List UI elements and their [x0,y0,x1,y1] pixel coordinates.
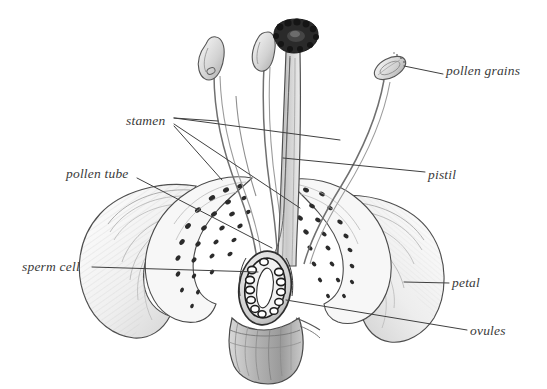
stigma [273,18,319,53]
anther-mid-left [252,32,275,71]
flower-anatomy-illustration [0,0,547,389]
receptacle [229,318,320,384]
anther-right [371,52,410,85]
label-stamen: stamen [126,114,165,128]
label-petal: petal [452,276,480,290]
stamen-left [198,37,263,268]
label-sperm-cell: sperm cell [22,260,80,274]
label-pollen-tube: pollen tube [66,167,129,181]
leader-stamen-2 [174,118,340,140]
ovary [234,248,296,329]
label-ovules: ovules [470,324,506,338]
diagram-canvas: pollen grains stamen pistil pollen tube … [0,0,547,389]
label-pistil: pistil [428,168,456,182]
anther-left [198,37,224,80]
pistil [272,18,319,266]
leader-pollen-grains [404,66,443,74]
label-pollen-grains: pollen grains [446,64,520,78]
leader-pistil [283,158,425,172]
leader-stamen-4 [174,126,222,180]
